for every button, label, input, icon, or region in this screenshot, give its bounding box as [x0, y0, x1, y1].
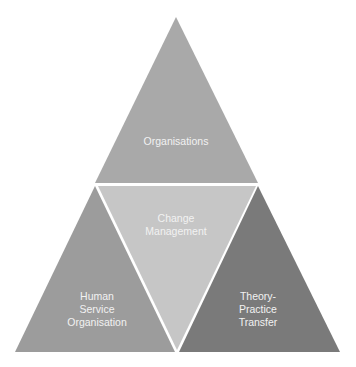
label-change-management: Change Management	[145, 212, 206, 238]
segment-top	[95, 17, 258, 183]
label-organisations: Organisations	[144, 135, 209, 148]
label-theory-practice-transfer: Theory- Practice Transfer	[239, 290, 278, 329]
triangle-diagram	[0, 0, 356, 367]
label-human-service-organisation: Human Service Organisation	[67, 290, 127, 329]
